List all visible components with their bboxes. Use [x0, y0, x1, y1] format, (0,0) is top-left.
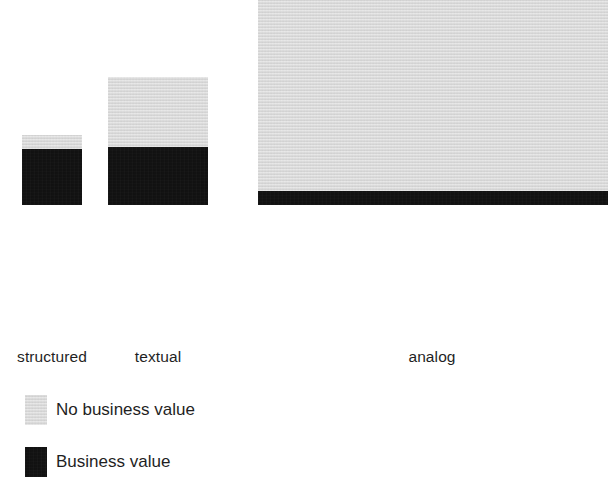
legend-label-no-business-value: No business value [56, 393, 195, 426]
bar-textual [108, 77, 208, 205]
legend-swatch-business-value [25, 447, 47, 477]
chart-legend: No business value Business value [25, 393, 355, 481]
x-axis-label-textual: textual [120, 347, 196, 367]
bar-structured [22, 135, 82, 205]
bar-segment-no-business-value [108, 77, 208, 147]
bar-stack-textual [108, 77, 208, 205]
legend-label-business-value: Business value [56, 445, 170, 478]
bar-stack-structured [22, 135, 82, 205]
bar-analog [258, 0, 608, 205]
bar-stack-analog [258, 0, 608, 205]
bar-segment-no-business-value [258, 0, 608, 191]
x-axis-label-structured: structured [0, 347, 104, 367]
legend-swatch-no-business-value [25, 395, 47, 425]
x-axis-label-analog: analog [378, 347, 486, 367]
bar-segment-business-value [258, 191, 608, 205]
bar-segment-business-value [22, 149, 82, 205]
bar-segment-no-business-value [22, 135, 82, 149]
legend-item-business-value: Business value [25, 445, 355, 481]
legend-item-no-business-value: No business value [25, 393, 355, 445]
bar-segment-business-value [108, 147, 208, 205]
plot-area: structured textual analog [0, 0, 604, 345]
